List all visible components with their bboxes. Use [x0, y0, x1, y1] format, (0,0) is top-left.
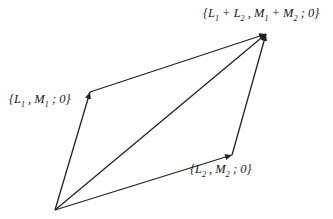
label-v1: {L1 , M1 ; 0} — [9, 92, 70, 109]
vector-diagram — [0, 0, 333, 219]
vector-v2-translated — [90, 34, 266, 92]
vector-v1 — [55, 92, 90, 210]
vector-sum-diagonal — [55, 34, 266, 210]
label-sum: {L1 + L2 , M1 + M2 ; 0} — [203, 6, 319, 23]
label-v2: {L2 , M2 ; 0} — [190, 162, 251, 179]
vector-v1-translated — [232, 34, 266, 155]
